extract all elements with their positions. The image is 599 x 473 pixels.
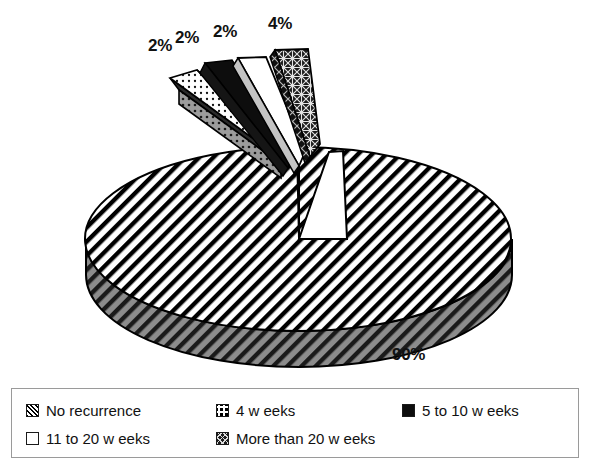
pie-chart-graphic — [0, 0, 599, 380]
data-label-11-to-20-weeks: 2% — [213, 22, 237, 42]
data-label-5-to-10-weeks: 2% — [175, 28, 199, 48]
legend-swatch-dots-icon — [216, 404, 229, 417]
legend-label: 5 to 10 w eeks — [422, 402, 519, 419]
legend-row: No recurrence 4 w eeks 5 to 10 w eeks — [12, 396, 578, 424]
data-label-4-weeks: 2% — [148, 36, 172, 56]
legend-label: 4 w eeks — [236, 402, 295, 419]
legend-swatch-solid-icon — [402, 404, 415, 417]
legend-label: No recurrence — [46, 402, 141, 419]
legend-item-no-recurrence: No recurrence — [12, 402, 202, 419]
legend-row: 11 to 20 w eeks More than 20 w eeks — [12, 424, 578, 452]
chart-legend: No recurrence 4 w eeks 5 to 10 w eeks 11… — [11, 388, 579, 458]
legend-item-5-to-10-weeks: 5 to 10 w eeks — [388, 402, 578, 419]
legend-swatch-wicker-icon — [216, 432, 229, 445]
pie-chart: 2% 2% 2% 4% 90% — [0, 0, 599, 380]
legend-swatch-stripes-icon — [26, 404, 39, 417]
legend-item-more-than-20-weeks: More than 20 w eeks — [202, 430, 388, 447]
legend-label: 11 to 20 w eeks — [46, 430, 150, 447]
legend-item-4-weeks: 4 w eeks — [202, 402, 388, 419]
legend-item-11-to-20-weeks: 11 to 20 w eeks — [12, 430, 202, 447]
data-label-more-than-20-weeks: 4% — [268, 14, 292, 34]
legend-label: More than 20 w eeks — [236, 430, 375, 447]
legend-swatch-empty-icon — [26, 432, 39, 445]
pie-slice-no-recurrence — [85, 147, 511, 331]
data-label-no-recurrence: 90% — [392, 345, 425, 365]
